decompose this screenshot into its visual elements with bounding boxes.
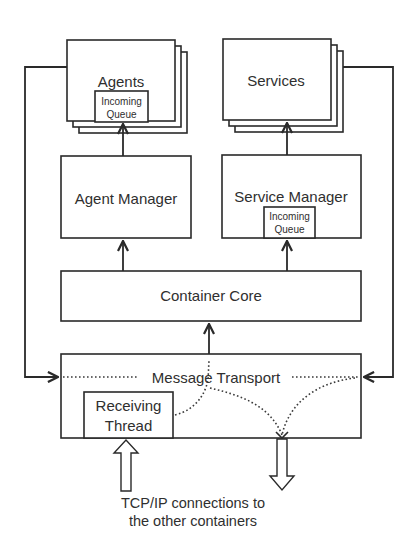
- agents-label: Agents: [98, 73, 145, 90]
- agent-manager-node: Agent Manager: [61, 156, 191, 238]
- container-core-label: Container Core: [160, 287, 262, 304]
- message-transport-node: Message Transport Receiving Thread: [61, 354, 361, 438]
- sm-queue-label-line2: Queue: [274, 224, 304, 235]
- caption-line2: the other containers: [129, 513, 257, 529]
- tcp-in-hollow-arrow: [114, 440, 138, 491]
- message-transport-label: Message Transport: [152, 369, 281, 386]
- tcp-out-hollow-arrow: [270, 439, 294, 490]
- agent-manager-label: Agent Manager: [75, 190, 178, 207]
- sm-queue-label-line1: Incoming: [269, 211, 310, 222]
- agents-queue-label-line1: Incoming: [101, 96, 142, 107]
- service-manager-label: Service Manager: [234, 188, 347, 205]
- services-node: Services: [223, 39, 343, 132]
- architecture-diagram: Agents Incoming Queue Services Agent Man…: [0, 0, 412, 554]
- container-core-node: Container Core: [61, 271, 361, 321]
- services-label: Services: [247, 72, 305, 89]
- receiving-thread-label-line2: Thread: [105, 417, 153, 434]
- caption-line1: TCP/IP connections to: [121, 495, 265, 511]
- agents-node: Agents Incoming Queue: [67, 40, 187, 133]
- receiving-thread-label-line1: Receiving: [96, 397, 162, 414]
- agents-queue-label-line2: Queue: [106, 109, 136, 120]
- service-manager-node: Service Manager Incoming Queue: [222, 155, 361, 238]
